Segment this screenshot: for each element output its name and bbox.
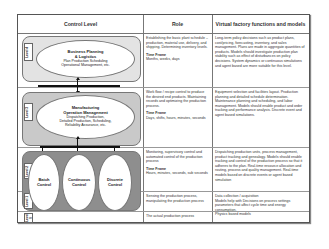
level-0-label: Level 0	[24, 213, 33, 223]
header-role: Role	[143, 15, 212, 33]
time-frame-value: Months, weeks, days	[146, 57, 180, 61]
arrow-up-icon	[76, 77, 80, 80]
virtual-factory-level-2: Dispatching production units, process ma…	[213, 148, 309, 191]
virtual-factory-level-1: Data collection / acquisition Models hel…	[213, 192, 309, 211]
role-text: Work flow / recipe control to produce th…	[146, 90, 206, 108]
batch-control-node: Batch Control	[28, 154, 60, 211]
role-level-0: The actual production process	[144, 212, 212, 222]
node-subtitle: Reliability Assurance, etc.	[65, 123, 106, 127]
connector-bar	[40, 146, 120, 148]
virtual-factory-level-3: Equipment selection and facilities layou…	[213, 88, 309, 147]
manufacturing-operation-node: Manufacturing Operation Management Dispa…	[36, 95, 135, 139]
virtual-factory-level-4: Long-term policy decisions such as produ…	[213, 34, 309, 87]
role-level-3: Work flow / recipe control to produce th…	[144, 88, 212, 147]
level-4-label: Level 4	[24, 43, 33, 61]
virtual-factory-level-0	[213, 212, 309, 222]
role-text: Sensing the production process, manipula…	[146, 194, 204, 203]
node-subtitle: Operational Management, etc.	[61, 63, 109, 67]
role-text: The actual production process	[146, 214, 194, 218]
role-level-4: Establishing the basic plant schedule – …	[144, 34, 212, 87]
continuous-control-node: Continuous Control	[62, 154, 96, 211]
time-frame-value: Hours, minutes, seconds, sub seconds	[146, 171, 208, 175]
isa95-hierarchy-table: Control Level Role Virtual factory funct…	[17, 14, 310, 223]
role-text: Monitoring, supervisory control and auto…	[146, 150, 203, 163]
node-title: Control	[72, 183, 86, 187]
connector-bar	[38, 85, 120, 87]
level-3-label: Level 3	[24, 103, 33, 121]
discrete-control-node: Discrete Control	[98, 154, 132, 211]
node-title: Control	[108, 183, 122, 187]
header-control-level: Control Level	[18, 15, 143, 33]
time-frame-value: Days, shifts, hours, minutes, seconds	[146, 116, 206, 120]
role-text: Establishing the basic plant schedule – …	[146, 36, 208, 49]
header-virtual-factory: Virtual factory functions and models	[212, 15, 309, 33]
role-level-2: Monitoring, supervisory control and auto…	[144, 148, 212, 191]
node-title: Control	[37, 183, 51, 187]
business-planning-node: Business Planning & Logistics Plan Produ…	[36, 40, 135, 78]
role-level-1: Sensing the production process, manipula…	[144, 192, 212, 211]
